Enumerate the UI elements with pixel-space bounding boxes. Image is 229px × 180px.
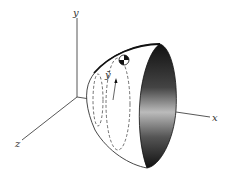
centroid-label: ȳ <box>104 69 111 80</box>
y-axis-label: y <box>72 7 79 18</box>
paraboloid <box>87 44 177 168</box>
center-of-mass-icon <box>119 55 129 65</box>
paraboloid-diagram: y x z ȳ <box>0 0 229 180</box>
z-axis <box>22 97 77 140</box>
z-axis-label: z <box>14 138 21 149</box>
x-axis <box>176 112 210 117</box>
x-axis-label: x <box>212 112 218 123</box>
